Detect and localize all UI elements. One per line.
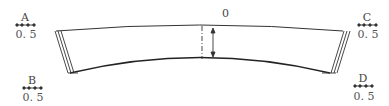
corner-label-c: C	[355, 12, 379, 23]
corner-label-d: D	[351, 73, 375, 84]
marker-a-icon	[16, 24, 35, 26]
center-label: 0	[222, 7, 229, 20]
left-end-layers	[55, 31, 78, 73]
corner-value-c: 0. 5	[353, 29, 383, 40]
corner-value-b: 0. 5	[18, 92, 48, 103]
marker-d-icon	[354, 85, 373, 87]
right-end-layers	[322, 31, 350, 73]
corner-label-a: A	[13, 12, 37, 23]
corner-value-d: 0. 5	[349, 91, 379, 102]
marker-c-icon	[358, 24, 377, 26]
thickness-arrow-icon	[211, 28, 215, 57]
corner-label-b: B	[20, 75, 44, 86]
bottom-edge	[70, 58, 330, 74]
curved-plate-drawing	[0, 0, 389, 106]
top-edge	[56, 25, 343, 31]
marker-b-icon	[23, 87, 42, 89]
corner-value-a: 0. 5	[11, 29, 41, 40]
